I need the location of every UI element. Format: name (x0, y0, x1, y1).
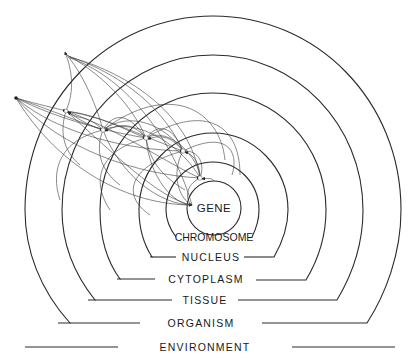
source-point (14, 96, 18, 100)
label-gene: GENE (197, 202, 232, 214)
node-4 (181, 149, 185, 153)
interaction-nodes (14, 96, 202, 180)
label-cytoplasm: CYTOPLASM (168, 273, 243, 285)
label-environment: ENVIRONMENT (160, 341, 251, 353)
gene-environment-diagram: GENE CHROMOSOME NUCLEUS CYTOPLASM TISSUE… (0, 0, 411, 362)
node-2 (101, 128, 105, 132)
node-1 (64, 109, 68, 113)
node-3 (144, 136, 148, 140)
label-organism: ORGANISM (168, 317, 235, 329)
label-tissue: TISSUE (182, 294, 227, 306)
node-5 (198, 176, 202, 180)
chromosome-boundary (166, 162, 259, 237)
label-nucleus: NUCLEUS (182, 251, 241, 263)
tissue-boundary (62, 55, 363, 300)
label-chromosome: CHROMOSOME (175, 231, 254, 243)
